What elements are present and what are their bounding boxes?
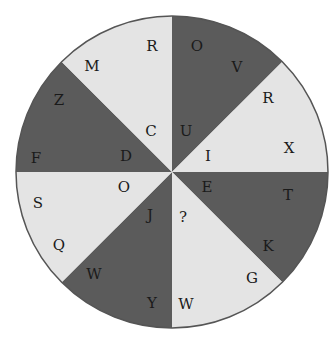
wheel-letter: C	[145, 122, 156, 140]
wheel-letter: U	[180, 122, 193, 140]
wheel-letter: E	[202, 178, 213, 196]
wheel-letter: M	[84, 57, 99, 75]
wheel-letter: J	[145, 206, 153, 224]
wheel-letter: O	[191, 37, 203, 55]
wheel-letter: D	[120, 147, 132, 165]
wheel-letter: W	[86, 265, 102, 283]
wheel-letter: R	[262, 89, 274, 107]
wheel-letter: S	[33, 194, 43, 212]
letter-wheel-puzzle: OVURXIETK?GWJWYOSQDFZMRC	[0, 0, 335, 343]
wheel-letter: G	[246, 269, 258, 287]
wheel-letter: O	[118, 178, 130, 196]
wheel-letter: X	[284, 139, 295, 157]
wheel-letter: F	[31, 149, 41, 167]
wheel-letter: K	[262, 237, 274, 255]
wheel-letter: V	[231, 58, 244, 76]
wheel-wedges	[16, 16, 328, 328]
wheel-letter: Q	[53, 236, 65, 254]
missing-letter-marker: ?	[179, 208, 187, 226]
wheel-letter: Y	[146, 294, 158, 312]
wheel-letter: Z	[54, 91, 64, 109]
wheel-letter: W	[178, 295, 194, 313]
wheel-letter: T	[283, 186, 293, 204]
wheel-letter: R	[146, 37, 158, 55]
wheel-letter: I	[205, 147, 211, 165]
